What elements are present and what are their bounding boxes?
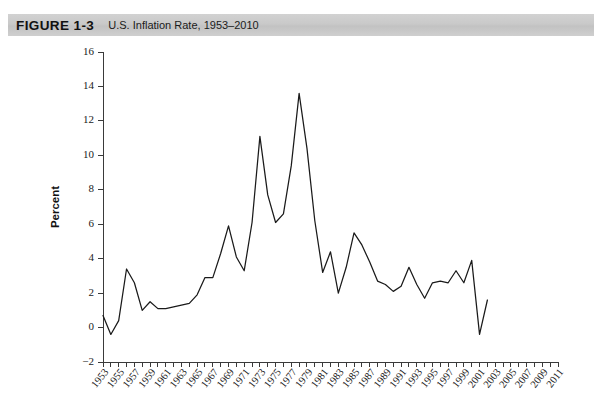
data-series-inflation-rate (103, 93, 487, 334)
y-tick-label: 14 (83, 79, 95, 91)
y-tick-label: 10 (83, 148, 95, 160)
y-axis-title: Percent (49, 186, 61, 228)
chart-plot-area: −20246810121416 195319551957195919611963… (0, 40, 602, 418)
figure-header-bar: FIGURE 1-3 U.S. Inflation Rate, 1953–201… (8, 14, 594, 36)
y-tick-label: 8 (89, 182, 95, 194)
inflation-line-chart: −20246810121416 195319551957195919611963… (0, 40, 602, 418)
y-tick-label: 2 (89, 286, 95, 298)
figure-caption: U.S. Inflation Rate, 1953–2010 (108, 19, 258, 31)
x-axis: 1953195519571959196119631965196719691971… (89, 362, 566, 390)
x-tick-label: 2011 (544, 366, 565, 389)
y-tick-label: 16 (83, 45, 95, 57)
figure-root: FIGURE 1-3 U.S. Inflation Rate, 1953–201… (0, 0, 602, 418)
inflation-rate-line (103, 93, 487, 334)
y-axis-title-label: Percent (49, 186, 61, 228)
y-tick-label: −2 (82, 355, 94, 367)
y-tick-label: 4 (89, 251, 95, 263)
y-tick-label: 0 (89, 320, 95, 332)
y-axis: −20246810121416 (82, 45, 103, 367)
figure-number: FIGURE 1-3 (16, 18, 94, 33)
y-tick-label: 12 (83, 113, 94, 125)
y-tick-label: 6 (89, 217, 95, 229)
